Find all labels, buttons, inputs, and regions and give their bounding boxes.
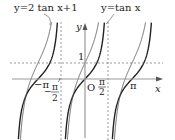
svg-text:−: −	[44, 86, 52, 96]
x-axis-arrow-icon	[156, 77, 163, 82]
svg-text:π: π	[52, 82, 58, 92]
label-2tanx-plus-1: y=2 tan x+1	[13, 2, 78, 13]
origin-label: O	[87, 82, 95, 93]
x-axis-label: x	[155, 83, 161, 94]
y-tick-1: 1	[78, 51, 84, 62]
y-axis-arrow-icon	[83, 23, 88, 30]
y-axis-label: y	[75, 21, 82, 32]
svg-text:2: 2	[99, 87, 105, 97]
label-tanx: y=tan x	[100, 2, 141, 13]
tangent-graph: x y O 1 −π π π 2 − π 2 y=2 tan x+1 y=tan…	[0, 0, 175, 140]
leader-tanx	[106, 14, 114, 24]
leader-2tanx-plus-1	[44, 14, 50, 25]
x-tick-pi: π	[130, 80, 137, 91]
x-tick-half-pi: π 2	[98, 77, 106, 97]
svg-text:2: 2	[52, 93, 58, 103]
svg-text:π: π	[99, 77, 105, 87]
